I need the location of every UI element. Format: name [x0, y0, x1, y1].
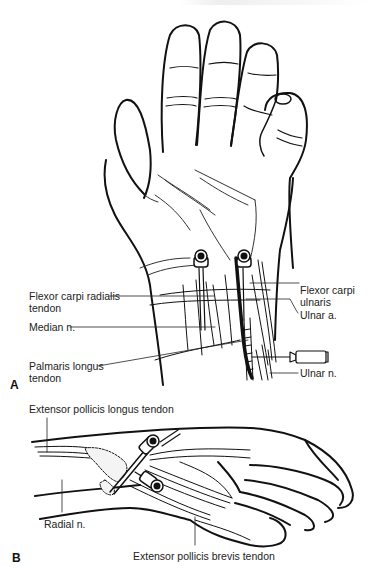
- label-palmaris-longus-tendon: Palmaris longus tendon: [29, 360, 104, 384]
- wrist-tendons: [150, 260, 276, 365]
- label-ulnar-nerve: Ulnar n.: [300, 367, 337, 379]
- label-extensor-pollicis-brevis-tendon: Extensor pollicis brevis tendon: [133, 550, 275, 562]
- label-flexor-carpi-ulnaris: Flexor carpi ulnaris: [300, 284, 366, 308]
- label-ulnar-artery: Ulnar a.: [300, 309, 337, 321]
- label-radial-nerve: Radial n.: [44, 518, 85, 530]
- hand-palmar-view: [105, 22, 307, 385]
- label-flexor-carpi-radialis-tendon: Flexor carpi radialis tendon: [29, 290, 139, 314]
- panel-label-b: B: [12, 551, 21, 565]
- epl-sheath-lower: [100, 480, 114, 495]
- panel-label-a: A: [10, 378, 19, 392]
- label-extensor-pollicis-longus-tendon: Extensor pollicis longus tendon: [29, 403, 174, 415]
- epl-sheath: [85, 448, 127, 482]
- label-median-nerve: Median n.: [29, 321, 75, 333]
